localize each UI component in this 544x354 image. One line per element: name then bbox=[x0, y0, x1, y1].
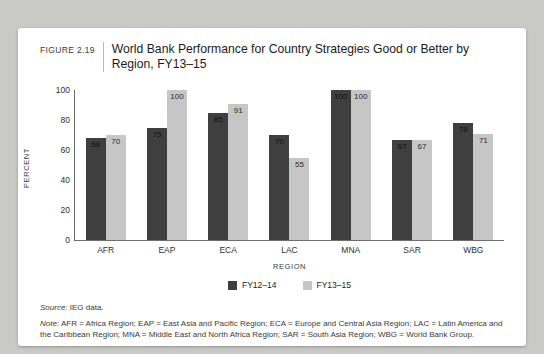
bar-value-label: 75 bbox=[147, 130, 167, 139]
bar: 91 bbox=[228, 104, 248, 241]
bar-value-label: 55 bbox=[289, 160, 309, 169]
category-label: EAP bbox=[136, 245, 197, 255]
category-label: AFR bbox=[75, 245, 136, 255]
y-axis-label: PERCENT bbox=[22, 148, 31, 188]
bar-value-label: 68 bbox=[86, 140, 106, 149]
category-label: MNA bbox=[320, 245, 381, 255]
bar-value-label: 78 bbox=[453, 125, 473, 134]
chart-plot-area: PERCENT 100806040200 6870AFR75100EAP8591… bbox=[18, 90, 526, 275]
bar: 67 bbox=[392, 140, 412, 241]
category-label: SAR bbox=[381, 245, 442, 255]
category-label: LAC bbox=[259, 245, 320, 255]
bar-value-label: 91 bbox=[228, 106, 248, 115]
legend-label: FY13–15 bbox=[317, 280, 352, 290]
bar-value-label: 67 bbox=[412, 142, 432, 151]
note-lead: Note: bbox=[40, 319, 59, 328]
legend-swatch bbox=[228, 281, 237, 290]
bar-pair: 6870 bbox=[86, 135, 126, 240]
bar: 85 bbox=[208, 113, 228, 241]
figure-header: FIGURE 2.19 World Bank Performance for C… bbox=[40, 42, 508, 72]
bar-group: 100100MNA bbox=[320, 90, 381, 240]
legend-item: FY13–15 bbox=[303, 280, 352, 290]
category-label: WBG bbox=[443, 245, 504, 255]
y-axis-tick: 20 bbox=[61, 205, 70, 215]
bar-groups: 6870AFR75100EAP8591ECA7055LAC100100MNA67… bbox=[75, 90, 504, 240]
bar-value-label: 100 bbox=[167, 92, 187, 101]
bar-pair: 7871 bbox=[453, 123, 493, 240]
bar: 100 bbox=[331, 90, 351, 240]
bar: 68 bbox=[86, 138, 106, 240]
bar-value-label: 100 bbox=[351, 92, 371, 101]
y-axis-tick: 40 bbox=[61, 175, 70, 185]
figure-notes: Source: IEG data. Note: AFR = Africa Reg… bbox=[40, 303, 512, 340]
figure-title: World Bank Performance for Country Strat… bbox=[112, 42, 508, 72]
figure-number: FIGURE 2.19 bbox=[40, 42, 95, 55]
y-axis-tick: 100 bbox=[56, 85, 70, 95]
bar-value-label: 85 bbox=[208, 115, 228, 124]
bar-group: 6767SAR bbox=[381, 90, 442, 240]
bar-group: 75100EAP bbox=[136, 90, 197, 240]
bar: 70 bbox=[269, 135, 289, 240]
y-axis-tick: 80 bbox=[61, 115, 70, 125]
y-axis-tick: 0 bbox=[65, 235, 70, 245]
bar-group: 7871WBG bbox=[443, 90, 504, 240]
y-axis-tick: 60 bbox=[61, 145, 70, 155]
bar-pair: 7055 bbox=[269, 135, 309, 240]
x-axis-line bbox=[74, 240, 504, 241]
bar-value-label: 67 bbox=[392, 142, 412, 151]
bar-group: 6870AFR bbox=[75, 90, 136, 240]
bar-value-label: 100 bbox=[331, 92, 351, 101]
bar-value-label: 70 bbox=[106, 137, 126, 146]
chart-legend: FY12–14FY13–15 bbox=[75, 280, 504, 290]
bar-pair: 75100 bbox=[147, 90, 187, 240]
bar: 55 bbox=[289, 158, 309, 241]
source-line: Source: IEG data. bbox=[40, 303, 512, 312]
y-axis-ticks: 100806040200 bbox=[42, 90, 70, 240]
note-text: AFR = Africa Region; EAP = East Asia and… bbox=[40, 319, 502, 339]
bar: 100 bbox=[167, 90, 187, 240]
bar-pair: 8591 bbox=[208, 104, 248, 241]
legend-swatch bbox=[303, 281, 312, 290]
bar: 78 bbox=[453, 123, 473, 240]
x-axis-label: REGION bbox=[75, 262, 504, 271]
legend-item: FY12–14 bbox=[228, 280, 277, 290]
bar-pair: 6767 bbox=[392, 140, 432, 241]
source-lead: Source: bbox=[40, 303, 68, 312]
figure-card: FIGURE 2.19 World Bank Performance for C… bbox=[18, 28, 526, 346]
bar-value-label: 70 bbox=[269, 137, 289, 146]
bar-value-label: 71 bbox=[473, 136, 493, 145]
bar: 71 bbox=[473, 134, 493, 241]
bar: 67 bbox=[412, 140, 432, 241]
bar-pair: 100100 bbox=[331, 90, 371, 240]
header-divider bbox=[103, 42, 104, 72]
legend-label: FY12–14 bbox=[242, 280, 277, 290]
category-label: ECA bbox=[198, 245, 259, 255]
bar-group: 8591ECA bbox=[198, 90, 259, 240]
bar: 100 bbox=[351, 90, 371, 240]
bar: 70 bbox=[106, 135, 126, 240]
bar: 75 bbox=[147, 128, 167, 241]
note-line: Note: AFR = Africa Region; EAP = East As… bbox=[40, 319, 512, 340]
source-text: IEG data. bbox=[68, 303, 104, 312]
bar-group: 7055LAC bbox=[259, 90, 320, 240]
